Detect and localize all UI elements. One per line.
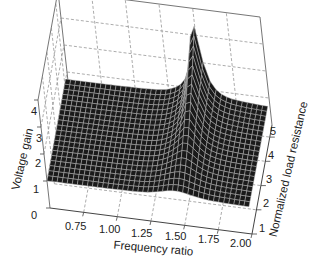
y-tick-3: 3 [266,173,272,185]
z-tick-1: 1 [33,183,39,195]
x-tick-2.00: 2.00 [230,237,251,249]
y-tick-1: 1 [259,222,265,234]
z-tick-4: 4 [31,105,37,117]
surface-mesh [47,26,268,207]
x-tick-1.00: 1.00 [99,223,120,235]
x-tick-1.50: 1.50 [165,230,186,242]
y-axis-title: Normalized load resistance [267,100,310,238]
x-tick-1.25: 1.25 [131,227,152,239]
x-tick-1.75: 1.75 [198,233,219,245]
y-tick-5: 5 [270,125,276,137]
surface-plot: 0 1 2 3 4 0.75 1.00 1.25 1.50 1.75 2.00 … [0,0,316,265]
z-tick-3: 3 [36,132,42,144]
z-tick-0: 0 [31,209,37,221]
z-axis-title: Voltage gain [9,127,35,191]
z-tick-2: 2 [35,157,41,169]
y-tick-4: 4 [268,149,274,161]
x-tick-0.75: 0.75 [65,220,86,232]
y-tick-2: 2 [263,197,269,209]
